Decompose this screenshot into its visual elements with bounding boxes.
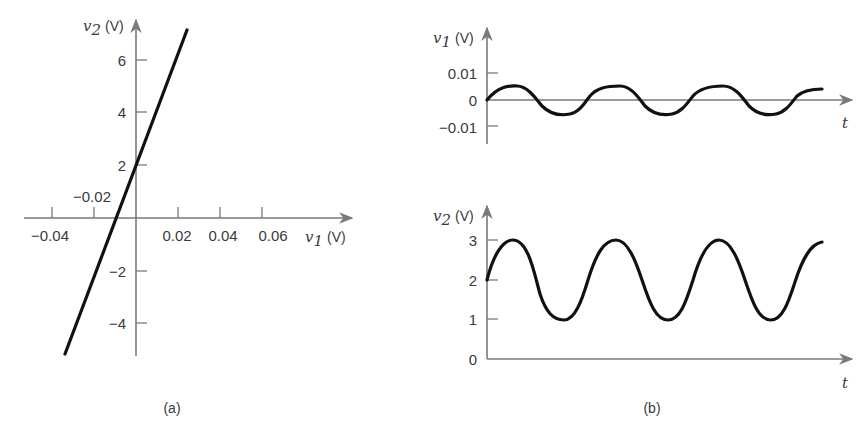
panel-b-top-t-label: t [842,114,849,132]
panel-b-bottom-v2-curve [487,240,822,320]
panel-b-top-y-axis-title: v1(V) [433,29,474,51]
panel-a-x-axis-title: v1(V) [305,228,346,250]
panel-b-top-y-tick: 0.01 [448,65,477,82]
panel-b-bottom-y-tick: 0 [469,351,477,368]
panel-a-x-tick: 0.02 [162,227,191,244]
svg-text:v1(V): v1(V) [305,228,346,250]
svg-text:v1(V): v1(V) [433,29,474,51]
figure: 6 4 2 −2 −4 −0.04 −0.02 0.02 0.04 0.06 v… [0,0,864,432]
panel-a-y-tick: 2 [118,157,126,174]
panel-a-y-tick: −2 [109,263,126,280]
panel-a-y-tick: 6 [118,52,126,69]
panel-a-x-tick: 0.06 [258,227,287,244]
svg-text:v2(V): v2(V) [433,207,474,229]
panel-a-y-tick: 4 [118,104,126,121]
panel-b-bottom-y-tick: 2 [469,272,477,289]
panel-b-bottom-y-tick: 3 [469,232,477,249]
panel-a-x-tick: −0.04 [31,227,69,244]
panel-a-x-tick: 0.04 [208,227,237,244]
panel-b-top-chart: 0.01 0 −0.01 v1(V) t [433,28,852,144]
panel-a-chart: 6 4 2 −2 −4 −0.04 −0.02 0.02 0.04 0.06 v… [24,17,352,416]
svg-text:v2(V): v2(V) [83,17,124,39]
panel-b-top-y-tick: −0.01 [439,119,477,136]
panel-a-y-axis-title: v2(V) [83,17,124,39]
panel-a-caption: (a) [163,400,180,416]
panel-b-bottom-y-axis-title: v2(V) [433,207,474,229]
panel-b-bottom-chart: 3 2 1 0 v2(V) t (b) [433,206,852,416]
panel-b-caption: (b) [643,400,660,416]
panel-a-y-tick: −4 [109,315,126,332]
panel-b-top-y-tick: 0 [469,92,477,109]
panel-b-bottom-y-tick: 1 [469,311,477,328]
panel-b-bottom-t-label: t [842,374,849,392]
panel-a-x-tick: −0.02 [73,188,111,205]
